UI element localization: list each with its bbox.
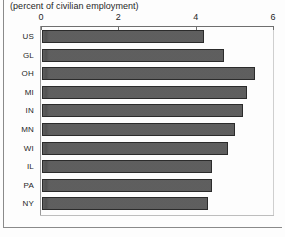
category-label-in: IN [0,104,34,117]
bar-row: IL [0,160,285,173]
bar-row: NY [0,197,285,210]
bar-mn [42,123,235,136]
category-label-oh: OH [0,67,34,80]
bar-oh [42,67,255,80]
bar-us [42,30,204,43]
bar-row: GL [0,49,285,62]
category-label-mn: MN [0,123,34,136]
bar-row: MN [0,123,285,136]
bar-row: MI [0,86,285,99]
x-tick-label-0: 0 [38,12,43,22]
x-tick-label-6: 6 [270,12,275,22]
category-label-mi: MI [0,86,34,99]
bar-gl [42,49,224,62]
category-label-pa: PA [0,179,34,192]
bar-pa [42,179,212,192]
x-axis-line [41,26,273,27]
category-label-ny: NY [0,197,34,210]
chart-figure: (percent of civilian employment) 0246 US… [0,0,285,237]
category-label-wi: WI [0,142,34,155]
category-label-il: IL [0,160,34,173]
bar-il [42,160,212,173]
bar-row: IN [0,104,285,117]
x-tick-label-4: 4 [193,12,198,22]
page-frame-bottom-rule [3,227,282,228]
bar-in [42,104,243,117]
category-label-gl: GL [0,49,34,62]
bar-ny [42,197,208,210]
bar-mi [42,86,247,99]
bar-row: US [0,30,285,43]
bar-row: WI [0,142,285,155]
x-tick-label-2: 2 [116,12,121,22]
bar-row: OH [0,67,285,80]
chart-subtitle: (percent of civilian employment) [10,1,139,12]
bar-wi [42,142,228,155]
category-label-us: US [0,30,34,43]
plot-bottom-rule [40,215,274,216]
bar-row: PA [0,179,285,192]
